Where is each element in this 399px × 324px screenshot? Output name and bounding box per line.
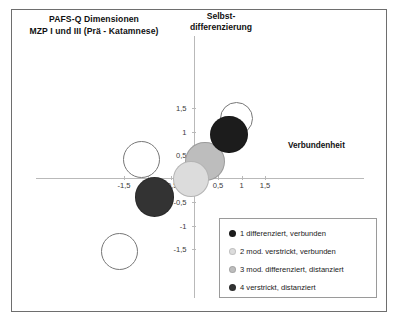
x-tick-mark	[242, 176, 243, 180]
x-tick-label: 1	[239, 181, 243, 190]
legend-marker-icon	[229, 284, 236, 291]
legend-item-label: 2 mod. verstrickt, verbunden	[240, 247, 336, 256]
y-tick-label: 1	[165, 127, 187, 136]
legend-item-label: 4 verstrickt, distanziert	[240, 283, 316, 292]
y-tick-label: -1	[165, 221, 187, 230]
y-tick-mark	[192, 132, 196, 133]
legend-item[interactable]: 1 differenziert, verbunden	[229, 224, 370, 242]
data-bubble	[173, 161, 209, 197]
x-tick-label: 0,5	[213, 181, 224, 190]
legend-item[interactable]: 3 mod. differenziert, distanziert	[229, 260, 370, 278]
x-tick-mark	[218, 176, 219, 180]
y-tick-mark	[192, 226, 196, 227]
data-bubble	[210, 116, 248, 154]
legend-item-label: 3 mod. differenziert, distanziert	[240, 265, 344, 274]
legend: 1 differenziert, verbunden2 mod. verstri…	[219, 218, 377, 298]
x-tick-mark	[124, 176, 125, 180]
data-bubble	[101, 233, 139, 271]
x-tick-label: 1,5	[260, 181, 271, 190]
x-tick-label: -1,5	[117, 181, 130, 190]
legend-item-label: 1 differenziert, verbunden	[240, 229, 326, 238]
legend-marker-icon	[229, 248, 236, 255]
x-tick-mark	[265, 176, 266, 180]
y-tick-label: -1,5	[165, 245, 187, 254]
data-bubble	[135, 177, 174, 216]
legend-item[interactable]: 2 mod. verstrickt, verbunden	[229, 242, 370, 260]
y-tick-label: 0,5	[165, 151, 187, 160]
legend-rows: 1 differenziert, verbunden2 mod. verstri…	[229, 224, 370, 296]
legend-item[interactable]: 4 verstrickt, distanziert	[229, 278, 370, 296]
data-bubble	[123, 141, 161, 179]
y-tick-mark	[192, 108, 196, 109]
legend-marker-icon	[229, 266, 236, 273]
legend-marker-icon	[229, 230, 236, 237]
y-tick-mark	[192, 249, 196, 250]
chart-page: PAFS-Q Dimensionen MZP I und III (Prä - …	[0, 0, 399, 324]
y-tick-label: 1,5	[165, 104, 187, 113]
y-tick-mark	[192, 202, 196, 203]
